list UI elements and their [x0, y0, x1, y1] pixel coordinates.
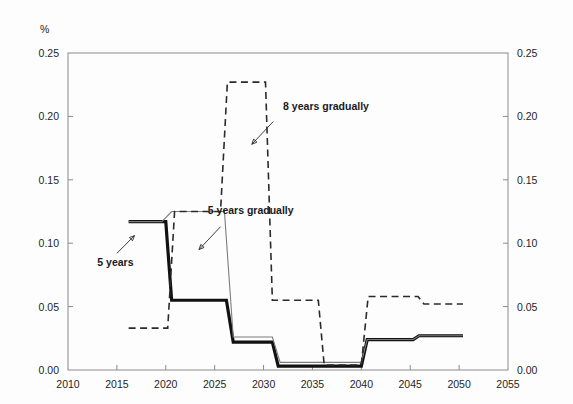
y-tick-label-right: 0.00	[517, 364, 538, 376]
annotation-label: 8 years gradually	[283, 100, 369, 112]
y-tick-label-left: 0.05	[39, 301, 60, 313]
y-tick-label-right: 0.20	[517, 110, 538, 122]
x-tick-label: 2030	[252, 378, 276, 390]
y-tick-label-right: 0.05	[517, 301, 538, 313]
annotation-label: 5 years gradually	[208, 204, 294, 216]
x-tick-label: 2020	[154, 378, 178, 390]
y-tick-label-right: 0.10	[517, 237, 538, 249]
y-axis-unit-label: %	[40, 23, 49, 35]
y-tick-label-right: 0.15	[517, 174, 538, 186]
x-tick-label: 2035	[301, 378, 325, 390]
chart-container: % 0.000.050.100.150.200.25 0.000.050.100…	[0, 0, 573, 404]
x-tick-label: 2045	[399, 378, 423, 390]
x-tick-label: 2025	[203, 378, 227, 390]
x-tick-label: 2015	[105, 378, 129, 390]
chart-background	[0, 0, 573, 404]
y-tick-label-left: 0.15	[39, 174, 60, 186]
x-tick-label: 2010	[56, 378, 80, 390]
y-tick-label-left: 0.25	[39, 47, 60, 59]
x-tick-label: 2050	[447, 378, 471, 390]
y-tick-label-left: 0.00	[39, 364, 60, 376]
x-tick-label: 2055	[496, 378, 520, 390]
y-tick-label-right: 0.25	[517, 47, 538, 59]
x-tick-label: 2040	[350, 378, 374, 390]
line-chart: % 0.000.050.100.150.200.25 0.000.050.100…	[0, 0, 573, 404]
y-tick-label-left: 0.10	[39, 237, 60, 249]
y-tick-label-left: 0.20	[39, 110, 60, 122]
annotation-label: 5 years	[97, 256, 133, 268]
